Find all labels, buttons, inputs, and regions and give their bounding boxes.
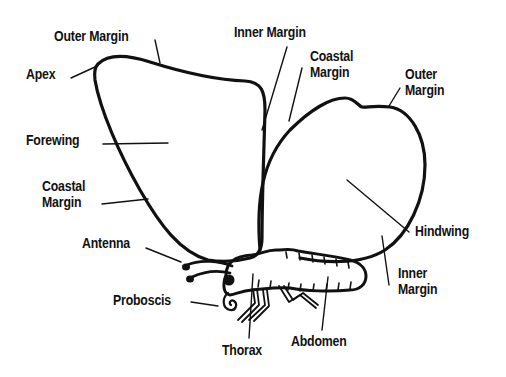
hindwing-outline — [259, 98, 425, 262]
leader-coastal-margin-fore — [102, 199, 148, 204]
label-line-1: Outer — [405, 66, 444, 82]
antenna-club-lower — [186, 276, 194, 283]
leader-coastal-margin-hind — [289, 68, 302, 121]
leader-forewing — [103, 143, 168, 144]
body-outline — [224, 249, 366, 295]
label-coastal-margin-hindwing: Coastal Margin — [310, 48, 353, 80]
label-line-2: Margin — [42, 194, 85, 210]
leader-inner-margin-fore — [262, 47, 287, 130]
label-line-1: Coastal — [42, 178, 85, 194]
label-proboscis: Proboscis — [113, 292, 171, 308]
label-thorax: Thorax — [222, 342, 262, 358]
label-abdomen: Abdomen — [291, 333, 347, 349]
leader-proboscis — [191, 302, 218, 306]
label-inner-margin-forewing: Inner Margin — [234, 24, 306, 40]
label-line-2: Margin — [405, 82, 444, 98]
leader-apex — [71, 67, 95, 78]
leader-antenna — [146, 248, 181, 262]
leader-hindwing — [347, 180, 409, 232]
label-antenna: Antenna — [82, 235, 130, 251]
leader-outer-margin-fore — [155, 40, 160, 63]
leader-abdomen — [322, 277, 328, 330]
label-line-1: Coastal — [310, 48, 353, 64]
forewing-outline — [95, 56, 265, 261]
label-line-1: Inner — [398, 265, 437, 281]
label-forewing: Forewing — [26, 132, 79, 148]
antenna-club-upper — [182, 264, 190, 271]
label-outer-margin-forewing: Outer Margin — [54, 28, 129, 44]
label-outer-margin-hindwing: Outer Margin — [405, 66, 444, 98]
label-inner-margin-hindwing: Inner Margin — [398, 265, 437, 297]
label-line-2: Margin — [310, 64, 353, 80]
leader-outer-margin-hind — [389, 88, 400, 106]
label-coastal-margin-forewing: Coastal Margin — [42, 178, 85, 210]
eye — [224, 275, 235, 286]
label-line-2: Margin — [398, 281, 437, 297]
label-apex: Apex — [26, 66, 55, 82]
leader-inner-margin-hind — [382, 236, 389, 285]
label-hindwing: Hindwing — [415, 223, 469, 239]
